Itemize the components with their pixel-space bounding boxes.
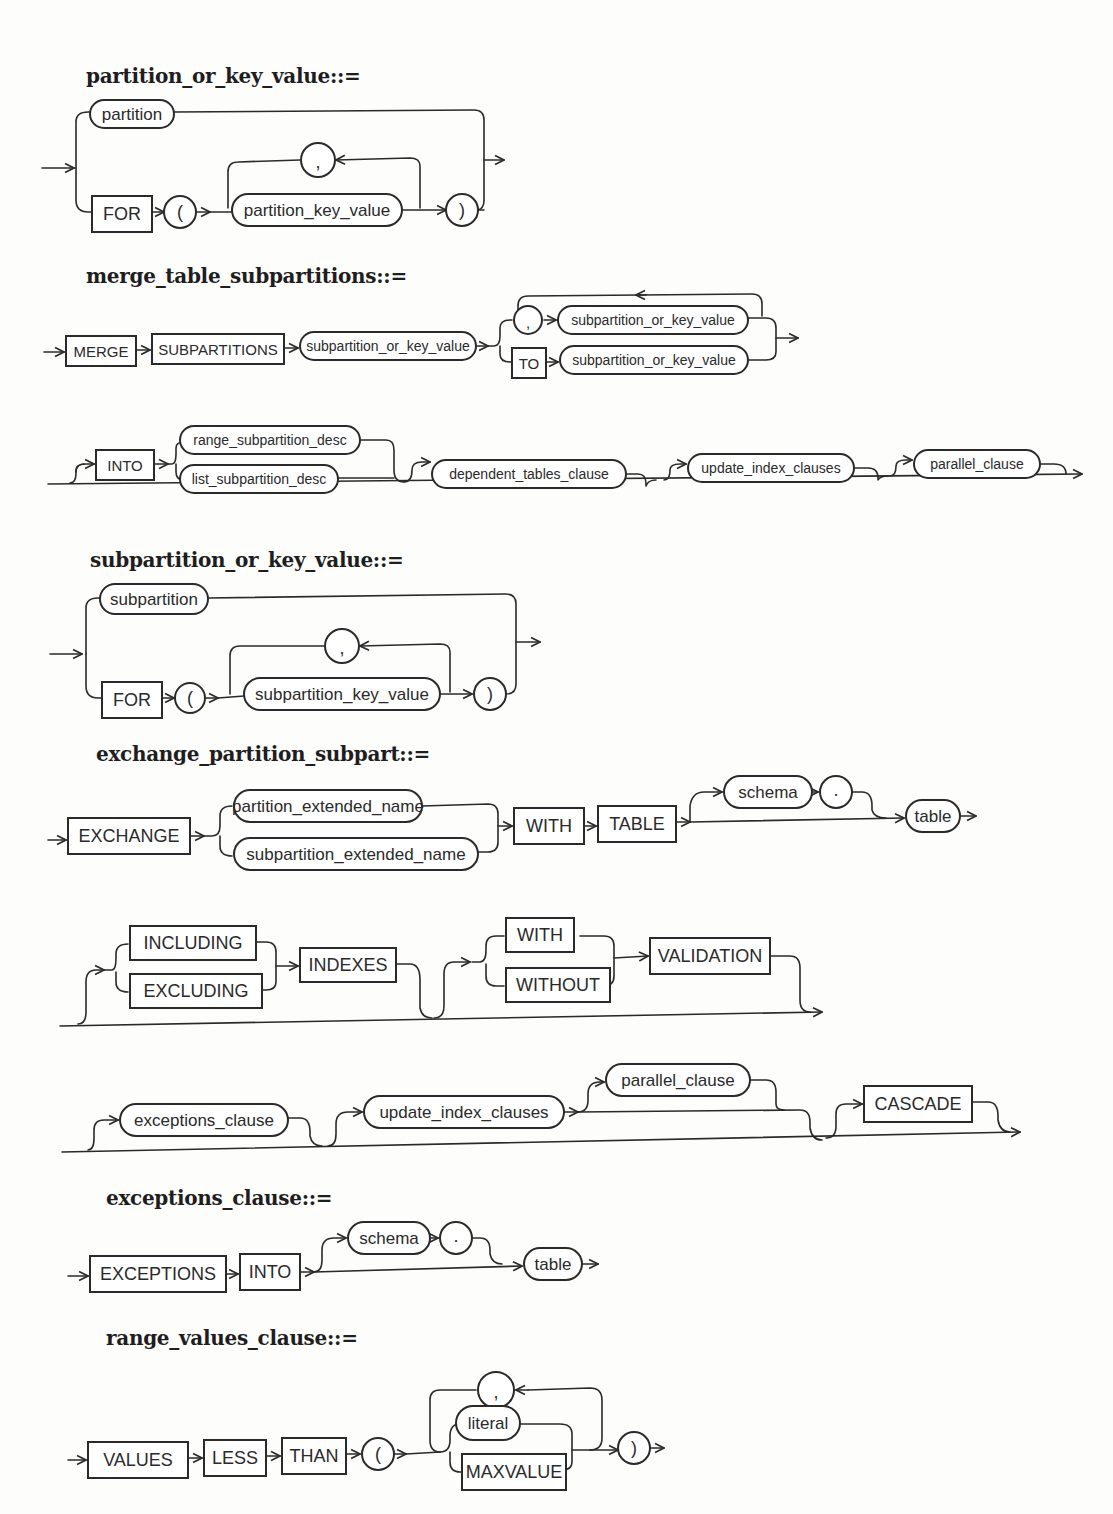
svg-text:TO: TO: [519, 355, 540, 372]
node-lparen: (: [362, 1438, 394, 1470]
svg-text:SUBPARTITIONS: SUBPARTITIONS: [158, 341, 277, 358]
node-with: WITH: [506, 918, 574, 952]
svg-text:parallel_clause: parallel_clause: [930, 456, 1024, 472]
node-to: TO: [512, 348, 546, 378]
svg-text:WITH: WITH: [517, 925, 563, 945]
node-dot: .: [440, 1222, 472, 1254]
svg-text:): ): [487, 684, 493, 704]
svg-text:subpartition_extended_name: subpartition_extended_name: [246, 845, 465, 864]
svg-text:MAXVALUE: MAXVALUE: [466, 1462, 563, 1482]
svg-text:subpartition_or_key_value: subpartition_or_key_value: [571, 312, 735, 328]
svg-text:INDEXES: INDEXES: [308, 955, 387, 975]
svg-text:subpartition_key_value: subpartition_key_value: [255, 685, 429, 704]
node-including: INCLUDING: [130, 926, 256, 960]
diagram-partition-or-key-value: partition FOR ( , partition_key_value ): [42, 100, 504, 232]
node-indexes: INDEXES: [300, 948, 396, 982]
svg-text:INTO: INTO: [249, 1262, 292, 1282]
node-rparen: ): [446, 194, 478, 226]
node-subpartition-or-key-value-3: subpartition_or_key_value: [560, 346, 748, 374]
node-for: FOR: [102, 682, 162, 718]
diagram-subpartition-or-key-value: subpartition FOR ( , subpartition_key_va…: [50, 584, 540, 718]
svg-text:,: ,: [315, 152, 320, 172]
node-range-subpartition-desc: range_subpartition_desc: [180, 426, 360, 454]
node-cascade: CASCADE: [864, 1086, 972, 1122]
node-without: WITHOUT: [506, 968, 610, 1002]
diagram-merge-table-subpartitions-row2: INTO range_subpartition_desc list_subpar…: [48, 426, 1082, 493]
svg-text:EXCLUDING: EXCLUDING: [143, 981, 248, 1001]
node-dependent-tables-clause: dependent_tables_clause: [432, 460, 626, 488]
node-schema: schema: [724, 776, 812, 808]
svg-text:subpartition_or_key_value: subpartition_or_key_value: [572, 352, 736, 368]
svg-text:partition_key_value: partition_key_value: [244, 201, 390, 220]
svg-text:exceptions_clause: exceptions_clause: [134, 1111, 274, 1130]
node-lparen: (: [175, 683, 205, 713]
node-rparen: ): [618, 1432, 650, 1464]
node-less: LESS: [204, 1440, 266, 1476]
svg-text:INTO: INTO: [107, 457, 143, 474]
node-exceptions-clause: exceptions_clause: [120, 1104, 288, 1136]
node-comma: ,: [478, 1372, 514, 1408]
node-subpartition-extended-name: subpartition_extended_name: [234, 838, 478, 870]
svg-text:list_subpartition_desc: list_subpartition_desc: [192, 471, 327, 487]
diagram-exceptions-clause: EXCEPTIONS INTO schema . table: [68, 1222, 598, 1292]
node-update-index-clauses: update_index_clauses: [364, 1096, 564, 1128]
svg-text:LESS: LESS: [212, 1448, 258, 1468]
svg-text:subpartition_or_key_value: subpartition_or_key_value: [306, 338, 470, 354]
svg-text:,: ,: [493, 1382, 498, 1402]
svg-text:EXCHANGE: EXCHANGE: [78, 826, 179, 846]
node-comma: ,: [514, 306, 542, 334]
node-subpartition-or-key-value-1: subpartition_or_key_value: [300, 332, 476, 360]
node-table: table: [524, 1248, 582, 1280]
node-values: VALUES: [88, 1442, 188, 1478]
node-partition-extended-name: partition_extended_name: [232, 790, 424, 822]
svg-text:table: table: [915, 807, 952, 826]
svg-text:VALIDATION: VALIDATION: [658, 946, 762, 966]
svg-text:CASCADE: CASCADE: [874, 1094, 961, 1114]
svg-text:FOR: FOR: [113, 690, 151, 710]
svg-text:dependent_tables_clause: dependent_tables_clause: [449, 466, 609, 482]
node-maxvalue: MAXVALUE: [462, 1454, 566, 1490]
svg-text:(: (: [187, 688, 193, 708]
svg-text:schema: schema: [738, 783, 798, 802]
node-update-index-clauses: update_index_clauses: [688, 454, 854, 482]
node-rparen: ): [474, 678, 506, 710]
node-parallel-clause: parallel_clause: [914, 450, 1040, 478]
node-table: table: [906, 800, 960, 832]
svg-text:.: .: [453, 1226, 458, 1246]
svg-text:WITH: WITH: [526, 816, 572, 836]
node-parallel-clause: parallel_clause: [606, 1064, 750, 1096]
node-dot: .: [820, 776, 852, 808]
node-comma: ,: [325, 629, 359, 663]
svg-text:VALUES: VALUES: [103, 1450, 173, 1470]
node-than: THAN: [282, 1438, 346, 1474]
svg-text:,: ,: [526, 314, 530, 331]
node-exchange: EXCHANGE: [68, 818, 190, 854]
svg-text:): ): [631, 1438, 637, 1458]
node-exceptions: EXCEPTIONS: [90, 1256, 226, 1292]
svg-text:TABLE: TABLE: [609, 814, 665, 834]
node-subpartitions: SUBPARTITIONS: [152, 334, 284, 364]
svg-text:MERGE: MERGE: [73, 343, 128, 360]
node-partition-key-value: partition_key_value: [232, 194, 402, 226]
node-excluding: EXCLUDING: [130, 974, 262, 1008]
node-merge: MERGE: [66, 336, 136, 366]
node-subpartition-key-value: subpartition_key_value: [244, 678, 440, 710]
svg-text:.: .: [833, 780, 838, 800]
svg-text:INCLUDING: INCLUDING: [143, 933, 242, 953]
svg-text:(: (: [375, 1444, 381, 1464]
diagram-exchange-partition-subpart-row3: exceptions_clause update_index_clauses p…: [62, 1064, 1020, 1152]
svg-text:FOR: FOR: [103, 204, 141, 224]
node-list-subpartition-desc: list_subpartition_desc: [180, 465, 338, 493]
svg-text:THAN: THAN: [290, 1446, 339, 1466]
svg-text:WITHOUT: WITHOUT: [516, 975, 600, 995]
svg-text:schema: schema: [359, 1229, 419, 1248]
svg-text:parallel_clause: parallel_clause: [621, 1071, 734, 1090]
node-validation: VALIDATION: [650, 938, 770, 974]
node-into: INTO: [240, 1254, 300, 1290]
diagram-exchange-partition-subpart-row2: INCLUDING EXCLUDING INDEXES WITH WITHOUT…: [60, 918, 822, 1026]
node-for: FOR: [92, 196, 152, 232]
svg-text:(: (: [177, 202, 183, 222]
book-page: partition_or_key_value::= merge_table_su…: [0, 0, 1113, 1514]
svg-text:subpartition: subpartition: [110, 590, 198, 609]
railroad-diagrams: partition FOR ( , partition_key_value ): [0, 0, 1113, 1514]
